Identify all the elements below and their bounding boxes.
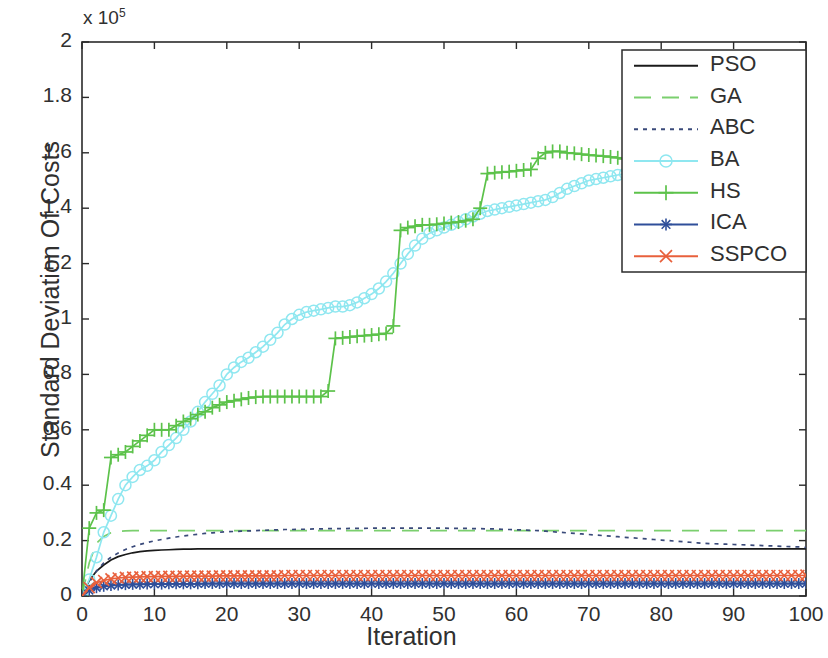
x-tick-label: 60 [476, 602, 556, 626]
x-tick-label: 30 [259, 602, 339, 626]
y-tick-label: 0.2 [2, 527, 72, 551]
x-tick-label: 90 [694, 602, 774, 626]
legend-label-pso[interactable]: PSO [710, 51, 756, 77]
legend-label-abc[interactable]: ABC [710, 114, 755, 140]
x-tick-label: 10 [114, 602, 194, 626]
x-tick-label: 20 [187, 602, 267, 626]
x-axis-title: Iteration [0, 622, 823, 651]
legend-label-ica[interactable]: ICA [710, 209, 747, 235]
y-tick-label: 0.6 [2, 416, 72, 440]
x-tick-label: 40 [332, 602, 412, 626]
legend-label-ba[interactable]: BA [710, 146, 739, 172]
y-tick-label: 0 [2, 582, 72, 606]
legend-label-sspco[interactable]: SSPCO [710, 241, 787, 267]
y-tick-label: 1.8 [2, 83, 72, 107]
x-tick-label: 100 [766, 602, 828, 626]
x-tick-label: 50 [404, 602, 484, 626]
y-tick-label: 1.4 [2, 194, 72, 218]
y-tick-label: 1.6 [2, 139, 72, 163]
y-tick-label: 2 [2, 28, 72, 52]
legend-label-hs[interactable]: HS [710, 178, 741, 204]
legend-label-ga[interactable]: GA [710, 83, 742, 109]
y-tick-label: 0.8 [2, 360, 72, 384]
y-tick-label: 0.4 [2, 471, 72, 495]
y-tick-label: 1 [2, 305, 72, 329]
y-tick-label: 1.2 [2, 250, 72, 274]
x-tick-label: 80 [621, 602, 701, 626]
x-tick-label: 70 [549, 602, 629, 626]
